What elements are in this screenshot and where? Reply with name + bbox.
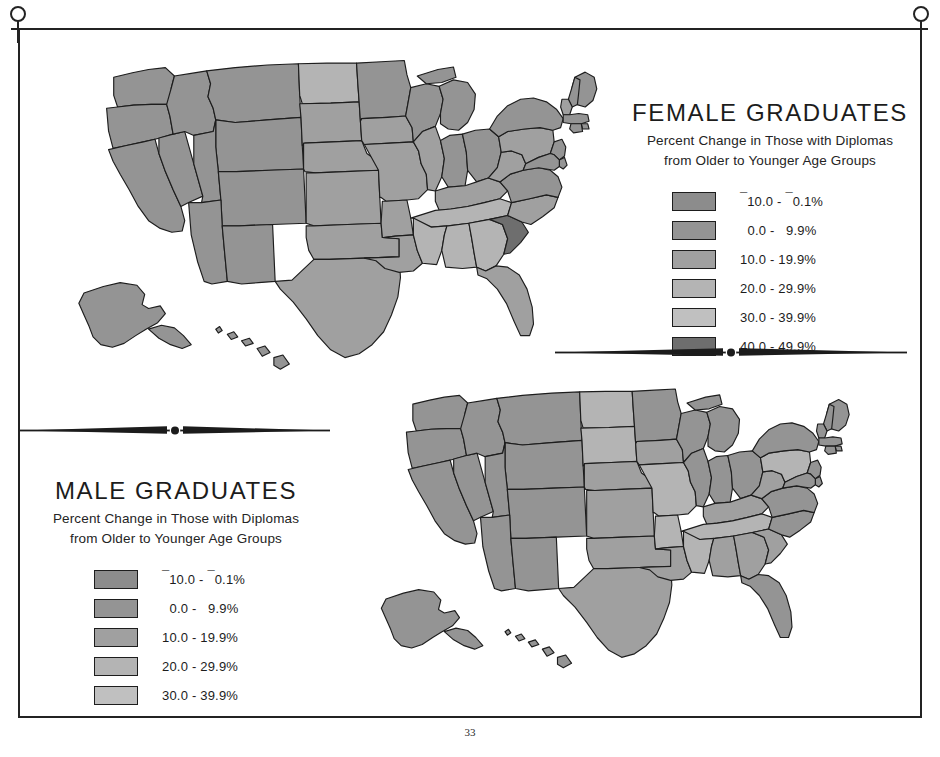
state-fl	[741, 575, 792, 638]
male-legend-subtitle-line2: from Older to Younger Age Groups	[26, 529, 326, 549]
legend-row: 0.0 - 9.9%	[94, 594, 326, 623]
state-mn	[632, 389, 681, 444]
state-id	[167, 71, 216, 136]
legend-swatch	[672, 308, 716, 327]
state-ct	[570, 124, 583, 133]
state-wa	[413, 395, 468, 431]
state-co	[218, 169, 306, 226]
state-ks	[587, 488, 655, 538]
legend-swatch	[672, 250, 716, 269]
female-legend-subtitle-line1: Percent Change in Those with Diplomas	[620, 131, 920, 151]
state-az	[189, 200, 228, 284]
state-ia	[636, 439, 684, 465]
legend-row: 30.0 - 39.9%	[672, 303, 920, 332]
male-legend-rows: ¯10.0 - ¯0.1% 0.0 - 9.9%10.0 - 19.9%20.0…	[26, 565, 326, 710]
legend-row: 10.0 - 19.9%	[94, 623, 326, 652]
state-mt	[497, 392, 582, 445]
legend-row: 30.0 - 39.9%	[94, 681, 326, 710]
page-number: 33	[0, 726, 940, 738]
state-mt	[207, 64, 301, 123]
state-ar	[381, 200, 413, 237]
decorative-divider	[20, 420, 330, 440]
female-legend-rows: ¯10.0 - ¯0.1% 0.0 - 9.9%10.0 - 19.9%20.0…	[620, 187, 920, 361]
male-graduates-map	[300, 368, 920, 718]
state-nd	[298, 63, 359, 104]
female-legend-subtitle-line2: from Older to Younger Age Groups	[620, 151, 920, 171]
state-id	[461, 398, 505, 456]
legend-label: 30.0 - 39.9%	[740, 310, 816, 325]
legend-label: ¯10.0 - ¯0.1%	[162, 572, 245, 587]
legend-swatch	[94, 686, 138, 705]
legend-label: 20.0 - 29.9%	[162, 659, 238, 674]
venus-symbol-icon	[908, 5, 934, 45]
state-ak	[79, 283, 191, 349]
state-nd	[580, 391, 635, 428]
state-fl	[477, 266, 534, 336]
legend-row: ¯10.0 - ¯0.1%	[94, 565, 326, 594]
legend-row: 0.0 - 9.9%	[672, 216, 920, 245]
state-nm	[222, 225, 275, 284]
male-legend-title: MALE GRADUATES	[26, 478, 326, 504]
male-legend-subtitle-line1: Percent Change in Those with Diplomas	[26, 509, 326, 529]
legend-swatch	[94, 628, 138, 647]
state-ma	[563, 113, 589, 123]
state-sd	[300, 102, 362, 146]
legend-row: 20.0 - 29.9%	[672, 274, 920, 303]
state-sd	[581, 426, 637, 466]
legend-label: 10.0 - 19.9%	[162, 630, 238, 645]
state-nm	[511, 537, 559, 591]
legend-label: 20.0 - 29.9%	[740, 281, 816, 296]
state-ia	[360, 116, 413, 144]
legend-label: 0.0 - 9.9%	[162, 601, 239, 616]
state-hi	[505, 629, 572, 668]
state-tx	[275, 257, 400, 358]
state-ak	[381, 590, 482, 649]
state-wa	[114, 68, 175, 107]
male-legend: MALE GRADUATES Percent Change in Those w…	[26, 478, 326, 710]
legend-swatch	[94, 570, 138, 589]
legend-label: 0.0 - 9.9%	[740, 223, 817, 238]
state-ma	[819, 437, 842, 446]
state-tx	[559, 566, 672, 657]
state-az	[481, 515, 516, 591]
legend-swatch	[672, 192, 716, 211]
legend-swatch	[672, 279, 716, 298]
state-hi	[216, 327, 290, 370]
state-ct	[825, 446, 837, 454]
state-de	[815, 477, 822, 488]
state-wy	[505, 440, 584, 489]
female-legend-title: FEMALE GRADUATES	[620, 100, 920, 126]
decorative-divider	[555, 342, 907, 362]
state-ar	[654, 515, 683, 549]
state-de	[559, 157, 567, 169]
state-co	[507, 487, 586, 538]
legend-label: ¯10.0 - ¯0.1%	[740, 194, 823, 209]
state-in	[441, 134, 468, 187]
legend-swatch	[94, 599, 138, 618]
state-wy	[216, 117, 304, 171]
female-legend: FEMALE GRADUATES Percent Change in Those…	[620, 100, 920, 361]
legend-row: 20.0 - 29.9%	[94, 652, 326, 681]
legend-row: 10.0 - 19.9%	[672, 245, 920, 274]
legend-swatch	[672, 221, 716, 240]
legend-row: ¯10.0 - ¯0.1%	[672, 187, 920, 216]
state-ks	[306, 170, 381, 226]
legend-label: 30.0 - 39.9%	[162, 688, 238, 703]
legend-label: 10.0 - 19.9%	[740, 252, 816, 267]
legend-swatch	[94, 657, 138, 676]
state-mn	[357, 61, 411, 122]
